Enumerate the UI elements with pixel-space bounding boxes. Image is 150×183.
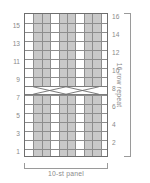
row-number-left-9: 9 [2,76,20,85]
chart-column-shaded-5 [59,14,67,156]
chart-gridline-vertical-3 [50,14,51,156]
chart-gridline-horizontal-4 [25,50,107,51]
row-number-left-7: 7 [2,94,20,103]
chart-gridline-horizontal-1 [25,23,107,24]
chart-column-shaded-3 [42,14,50,156]
chart-gridline-horizontal-3 [25,41,107,42]
chart-gridline-horizontal-15 [25,149,107,150]
chart-gridline-horizontal-6 [25,68,107,69]
chart-gridline-horizontal-13 [25,131,107,132]
panel-width-label: 10-st panel [14,170,118,177]
row-number-left-5: 5 [2,112,20,121]
row-number-left-11: 11 [2,58,20,67]
chart-gridline-vertical-6 [75,14,76,156]
chart-gridline-horizontal-12 [25,122,107,123]
chart-gridline-horizontal-2 [25,32,107,33]
chart-gridline-vertical-2 [42,14,43,156]
chart-gridline-horizontal-14 [25,140,107,141]
row-number-left-13: 13 [2,40,20,49]
chart-gridline-vertical-9 [101,14,102,156]
chart-column-shaded-2 [33,14,41,156]
chart-grid [24,13,108,157]
chart-gridline-vertical-5 [67,14,68,156]
chart-gridline-horizontal-9 [25,95,107,96]
chart-column-shaded-6 [67,14,75,156]
row-number-left-1: 1 [2,148,20,157]
chart-gridline-horizontal-11 [25,113,107,114]
chart-gridline-vertical-7 [84,14,85,156]
chart-gridline-vertical-8 [92,14,93,156]
row-repeat-label: 16-row repeat [114,13,126,157]
chart-gridline-horizontal-7 [25,77,107,78]
knitting-chart-figure: 15131197531 161412108642 16-row repeat 1… [0,0,150,183]
cable-crossing-row-8 [25,86,107,95]
row-number-left-15: 15 [2,22,20,31]
chart-gridline-vertical-4 [59,14,60,156]
row-number-left-3: 3 [2,130,20,139]
chart-gridline-vertical-1 [33,14,34,156]
chart-column-shaded-8 [84,14,92,156]
row-numbers-left-axis: 15131197531 [2,13,22,157]
chart-column-shaded-9 [92,14,100,156]
chart-gridline-horizontal-5 [25,59,107,60]
chart-gridline-horizontal-10 [25,104,107,105]
panel-width-bracket [24,163,108,169]
